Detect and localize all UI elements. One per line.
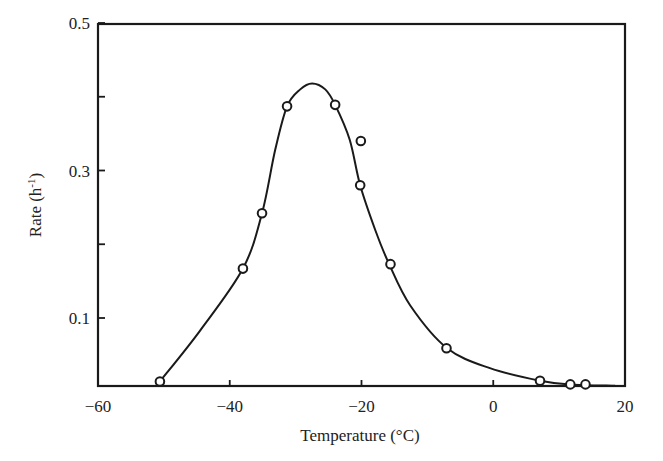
data-point-marker [386,260,395,269]
data-point-marker [357,137,366,146]
data-point-marker [239,264,248,273]
data-point-marker [356,181,365,190]
plot-frame [98,24,625,386]
x-tick-label: 0 [489,397,498,416]
y-tick-label: 0.1 [69,309,90,328]
data-point-marker [156,377,165,386]
chart: −60−40−20020 0.10.30.5 Temperature (°C) … [0,0,663,461]
x-tick-label: −40 [216,397,243,416]
fitted-curve-line [160,83,615,385]
x-tick-label: 20 [617,397,634,416]
data-point-marker [442,344,451,353]
y-tick-label: 0.5 [69,14,90,33]
y-tick-label: 0.3 [69,162,90,181]
data-point-marker [283,102,292,111]
data-point-marker [566,380,575,389]
plot-border [98,24,625,386]
data-point-marker [331,101,340,110]
data-points [156,101,590,389]
fitted-curve [160,83,615,385]
x-tick-label: −20 [348,397,375,416]
x-axis-label: Temperature (°C) [300,426,419,445]
data-point-marker [536,376,545,385]
data-point-marker [581,380,590,389]
y-axis-label: Rate (h-1) [25,173,45,237]
y-axis-ticks: 0.10.30.5 [69,14,105,328]
x-tick-label: −60 [85,397,112,416]
data-point-marker [258,209,267,218]
